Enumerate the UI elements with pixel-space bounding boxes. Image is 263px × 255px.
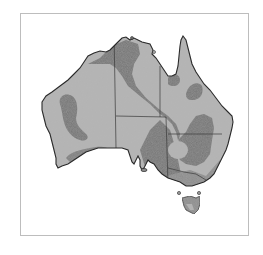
king-island <box>177 191 180 194</box>
flinders-island <box>197 191 200 194</box>
tiwi-islands <box>131 37 134 40</box>
kangaroo-island <box>141 168 147 171</box>
mainland <box>42 30 233 188</box>
groote-eylandt <box>153 51 156 54</box>
australia-map <box>0 0 263 255</box>
